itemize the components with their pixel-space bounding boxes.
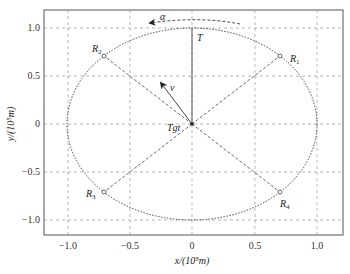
label-tgt: Tgt (167, 122, 181, 133)
y-axis-label: y/(10⁵m) (5, 106, 17, 142)
marker-r3 (102, 190, 106, 194)
marker-r1 (278, 54, 282, 58)
x-axis-label: x/(10⁵m) (174, 255, 210, 267)
y-tick-labels: 1.0 0.5 0 −0.5 −1.0 (22, 22, 40, 225)
label-v: v (170, 82, 175, 93)
marker-tgt (190, 122, 194, 126)
svg-text:0.5: 0.5 (28, 70, 41, 81)
svg-text:0.5: 0.5 (249, 240, 262, 251)
svg-text:−1.0: −1.0 (59, 240, 77, 251)
marker-r2 (102, 54, 106, 58)
svg-text:−0.5: −0.5 (121, 240, 139, 251)
label-alpha: α (160, 11, 166, 22)
svg-text:0: 0 (35, 118, 40, 129)
svg-text:−0.5: −0.5 (22, 166, 40, 177)
svg-text:1.0: 1.0 (311, 240, 324, 251)
chart: R1 R2 R3 R4 T Tgt v α −1.0 −0.5 0 0.5 1.… (0, 0, 350, 274)
x-tick-labels: −1.0 −0.5 0 0.5 1.0 (59, 240, 323, 251)
svg-text:−1.0: −1.0 (22, 214, 40, 225)
svg-text:1.0: 1.0 (28, 22, 41, 33)
svg-text:0: 0 (190, 240, 195, 251)
marker-r4 (278, 190, 282, 194)
